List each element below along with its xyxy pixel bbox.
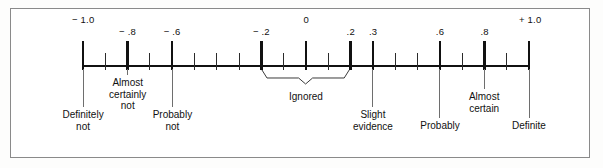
scale-point-label-line: not [109,100,146,112]
axis-tick--1 [82,41,85,69]
axis-tick-label-0: 0 [304,14,309,25]
scale-point-label-line: Probably [420,120,459,132]
axis-tick--0.3 [239,53,240,69]
axis-tick-label-0.2: .2 [347,26,355,37]
axis-tick-label--0.2: − .2 [253,26,270,37]
axis-tick--0.1 [283,53,284,69]
axis-tick--0.8 [126,41,129,69]
bracket-label: Ignored [289,91,323,102]
leader-line [484,69,485,89]
axis-tick-0.3 [372,41,375,69]
axis-tick-label-0.6: .6 [436,26,444,37]
leader-line [372,69,373,107]
axis-tick-0.9 [506,53,507,69]
axis-tick--0.9 [105,53,106,69]
scale-point-label: Almostcertain [469,91,500,114]
scale-point-label: Definitelynot [63,109,104,132]
scale-point-label-line: Definitely [63,109,104,121]
scale-point-label: Probably [420,120,459,132]
ignored-bracket [261,70,350,89]
leader-line [439,69,440,118]
axis-tick-label--0.6: − .6 [164,26,181,37]
scale-point-label-line: evidence [353,121,393,133]
scale-point-label: Almostcertainlynot [109,77,146,112]
axis-tick--0.4 [216,53,217,69]
leader-line [172,69,173,107]
scale-point-label-line: not [153,121,192,133]
axis-tick-0 [305,41,308,69]
scale-point-label-line: not [63,121,104,133]
bracket-shape [261,70,350,85]
scale-point-label-line: Almost [109,77,146,89]
scale-point-label: Probablynot [153,109,192,132]
axis-tick-0.6 [439,41,442,69]
axis-tick-1 [528,41,531,69]
scale-point-label-line: Definite [512,120,546,132]
axis-tick--0.2 [260,41,263,69]
axis-tick-label-0.3: .3 [369,26,377,37]
axis-tick-0.4 [395,53,396,69]
axis-tick-label-0.8: .8 [480,26,488,37]
axis-tick-0.1 [328,53,329,69]
axis-tick-label--1: − 1.0 [72,14,94,25]
axis-tick-0.7 [462,53,463,69]
leader-line [127,69,128,75]
scale-point-label-line: Probably [153,109,192,121]
diagram-frame: − 1.0− .8− .6− .20.2.3.6.8+ 1.0 Definite… [10,8,590,158]
axis-tick--0.5 [194,53,195,69]
axis-tick-0.8 [483,41,486,69]
diagram-canvas: − 1.0− .8− .6− .20.2.3.6.8+ 1.0 Definite… [0,0,603,168]
scale-point-label-line: Slight [353,109,393,121]
axis-tick--0.6 [171,41,174,69]
axis-tick-label--0.8: − .8 [119,26,136,37]
axis-tick-0.2 [349,41,352,69]
leader-line [529,69,530,118]
scale-point-label-line: certain [469,103,500,115]
scale-point-label: Slightevidence [353,109,393,132]
scale-point-label-line: Almost [469,91,500,103]
scale-point-label-line: certainly [109,89,146,101]
axis-tick-label-1: + 1.0 [519,14,541,25]
scale-point-label: Definite [512,120,546,132]
axis-tick--0.7 [149,53,150,69]
leader-line [83,69,84,107]
axis-tick-0.5 [417,53,418,69]
